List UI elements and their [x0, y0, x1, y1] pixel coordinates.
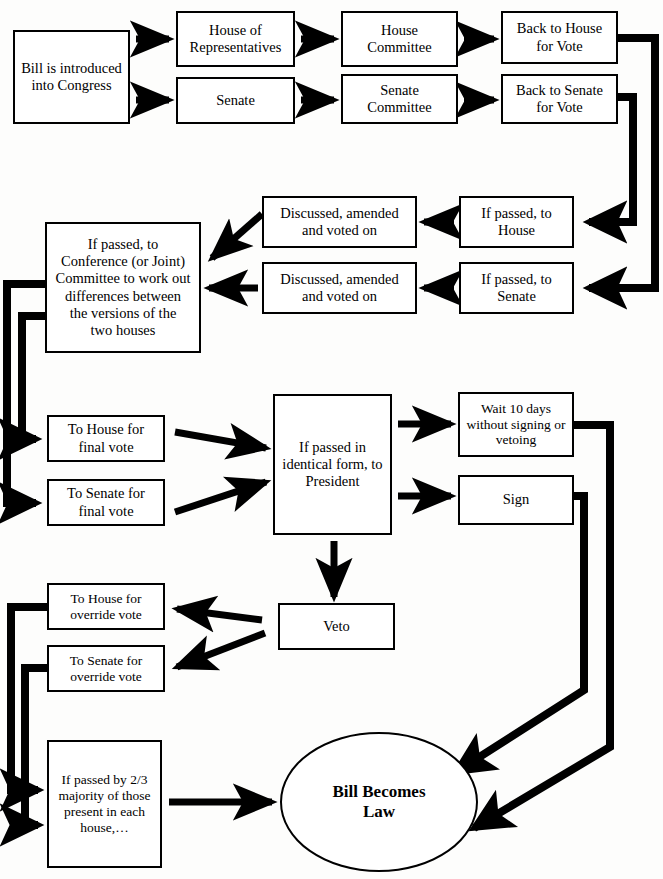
- node-discussed-house-label: Discussed, amended and voted on: [280, 205, 398, 239]
- edge-sign-to-bill-becomes-law: [456, 496, 584, 772]
- node-to-senate-override-label: To Senate for override vote: [70, 653, 143, 685]
- edge-conference-to-house-final-vote: [22, 316, 45, 439]
- node-bill-introduced[interactable]: Bill is introduced into Congress: [13, 30, 130, 124]
- node-senate-committee[interactable]: Senate Committee: [341, 74, 458, 124]
- node-to-senate-final-vote-label: To Senate for final vote: [67, 485, 145, 519]
- node-sign-label: Sign: [503, 491, 530, 508]
- edge-house-override-to-two-thirds: [11, 607, 47, 790]
- node-to-president-label: If passed in identical form, to Presiden…: [282, 439, 382, 490]
- node-two-thirds-majority-label: If passed by 2/3 majority of those prese…: [58, 772, 150, 836]
- node-bill-introduced-label: Bill is introduced into Congress: [21, 60, 122, 94]
- node-back-to-house-vote-label: Back to House for Vote: [517, 20, 602, 54]
- node-house-of-representatives[interactable]: House of Representatives: [176, 11, 295, 67]
- node-house-committee-label: House Committee: [367, 22, 431, 56]
- node-wait-ten-days-label: Wait 10 days without signing or vetoing: [466, 401, 565, 449]
- node-to-house-override-label: To House for override vote: [70, 591, 142, 623]
- node-bill-becomes-law[interactable]: Bill Becomes Law: [280, 732, 478, 872]
- node-to-house-override[interactable]: To House for override vote: [47, 583, 165, 630]
- edge-senate-override-to-two-thirds: [25, 668, 47, 825]
- node-if-passed-to-house[interactable]: If passed, to House: [459, 196, 574, 248]
- node-discussed-senate[interactable]: Discussed, amended and voted on: [262, 262, 417, 314]
- node-conference-committee-label: If passed, to Conference (or Joint) Comm…: [56, 236, 191, 339]
- node-senate-committee-label: Senate Committee: [367, 82, 431, 116]
- node-discussed-house[interactable]: Discussed, amended and voted on: [262, 196, 417, 248]
- node-sign[interactable]: Sign: [458, 475, 574, 525]
- node-veto[interactable]: Veto: [278, 603, 395, 650]
- edge-veto-to-house-override: [177, 609, 262, 620]
- node-if-passed-to-house-label: If passed, to House: [481, 205, 551, 239]
- node-to-house-final-vote-label: To House for final vote: [68, 421, 144, 455]
- edge-senate-final-vote-to-president: [175, 482, 266, 512]
- node-senate[interactable]: Senate: [176, 77, 295, 124]
- node-to-senate-override[interactable]: To Senate for override vote: [47, 645, 165, 692]
- node-to-senate-final-vote[interactable]: To Senate for final vote: [47, 479, 165, 526]
- edge-discussed-house-to-conference: [212, 214, 262, 258]
- node-veto-label: Veto: [323, 618, 350, 635]
- node-to-president[interactable]: If passed in identical form, to Presiden…: [273, 394, 392, 535]
- node-discussed-senate-label: Discussed, amended and voted on: [280, 271, 398, 305]
- node-senate-label: Senate: [216, 92, 255, 109]
- edge-conference-to-senate-final-vote: [7, 284, 45, 503]
- node-house-committee[interactable]: House Committee: [341, 11, 458, 67]
- node-house-of-representatives-label: House of Representatives: [190, 22, 282, 56]
- node-back-to-house-vote[interactable]: Back to House for Vote: [501, 11, 618, 64]
- node-to-house-final-vote[interactable]: To House for final vote: [47, 415, 165, 462]
- node-wait-ten-days[interactable]: Wait 10 days without signing or vetoing: [458, 392, 574, 457]
- node-if-passed-to-senate[interactable]: If passed, to Senate: [459, 262, 574, 314]
- node-bill-becomes-law-label: Bill Becomes Law: [332, 782, 425, 822]
- node-conference-committee[interactable]: If passed, to Conference (or Joint) Comm…: [45, 222, 201, 353]
- node-two-thirds-majority[interactable]: If passed by 2/3 majority of those prese…: [47, 740, 162, 868]
- node-if-passed-to-senate-label: If passed, to Senate: [481, 271, 551, 305]
- node-back-to-senate-vote-label: Back to Senate for Vote: [516, 82, 603, 116]
- node-back-to-senate-vote[interactable]: Back to Senate for Vote: [501, 74, 618, 124]
- edge-house-final-vote-to-president: [175, 432, 266, 448]
- edge-veto-to-senate-override: [177, 633, 265, 667]
- bill-to-law-flowchart: Bill is introduced into Congress House o…: [0, 0, 663, 879]
